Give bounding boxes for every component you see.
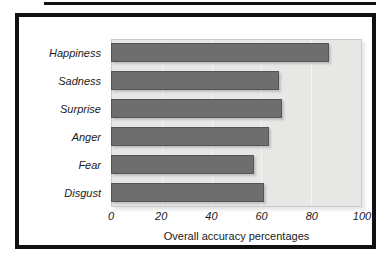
bar-sadness: [111, 71, 279, 90]
bar-row: [111, 39, 362, 67]
bar-row: [111, 95, 362, 123]
bar-fear: [111, 155, 254, 174]
x-axis-tick-100: 100: [353, 210, 371, 222]
y-axis-label-happiness: Happiness: [49, 39, 101, 67]
x-axis-tick-80: 80: [306, 210, 318, 222]
y-axis-label-fear: Fear: [78, 151, 101, 179]
bar-anger: [111, 127, 269, 146]
y-axis-label-disgust: Disgust: [64, 179, 101, 207]
bar-happiness: [111, 43, 329, 62]
bar-disgust: [111, 183, 264, 202]
bar-surprise: [111, 99, 282, 118]
chart-frame-border: HappinessSadnessSurpriseAngerFearDisgust…: [15, 13, 376, 249]
top-divider-rule: [44, 2, 376, 5]
bar-row: [111, 179, 362, 207]
bar-row: [111, 151, 362, 179]
y-axis-label-sadness: Sadness: [58, 67, 101, 95]
x-axis-tick-0: 0: [108, 210, 114, 222]
bars-layer: [111, 39, 362, 207]
bar-row: [111, 67, 362, 95]
bar-row: [111, 123, 362, 151]
y-axis-category-labels: HappinessSadnessSurpriseAngerFearDisgust: [19, 39, 107, 207]
x-axis-title: Overall accuracy percentages: [111, 230, 362, 242]
x-axis-tick-60: 60: [255, 210, 267, 222]
figure-root: HappinessSadnessSurpriseAngerFearDisgust…: [0, 0, 388, 260]
y-axis-label-anger: Anger: [72, 123, 101, 151]
x-axis-tick-20: 20: [155, 210, 167, 222]
x-axis-tick-labels: 020406080100: [111, 210, 362, 228]
x-axis-tick-40: 40: [205, 210, 217, 222]
y-axis-label-surprise: Surprise: [60, 95, 101, 123]
